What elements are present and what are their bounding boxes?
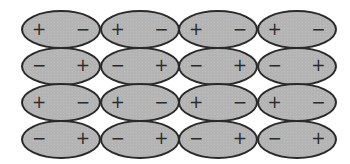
dipole-ellipse: −+ xyxy=(178,120,258,159)
plus-sign: + xyxy=(76,130,90,147)
dipole-ellipse: −+ xyxy=(178,47,258,86)
minus-sign: − xyxy=(233,94,247,111)
minus-sign: − xyxy=(311,94,325,111)
minus-sign: − xyxy=(32,130,46,147)
dipole-ellipse: +− xyxy=(178,83,258,122)
plus-sign: + xyxy=(111,94,125,111)
plus-sign: + xyxy=(233,130,247,147)
dipole-ellipse: −+ xyxy=(100,120,180,159)
plus-sign: + xyxy=(154,57,168,74)
plus-sign: + xyxy=(233,57,247,74)
dipole-ellipse: −+ xyxy=(21,120,101,159)
minus-sign: − xyxy=(268,57,282,74)
dipole-ellipse: +− xyxy=(178,10,258,49)
plus-sign: + xyxy=(32,94,46,111)
dipole-ellipse: −+ xyxy=(257,47,337,86)
minus-sign: − xyxy=(111,130,125,147)
dipole-ellipse: −+ xyxy=(257,120,337,159)
dipole-ellipse: +− xyxy=(257,10,337,49)
minus-sign: − xyxy=(189,57,203,74)
minus-sign: − xyxy=(76,94,90,111)
dipole-ellipse: +− xyxy=(21,10,101,49)
minus-sign: − xyxy=(189,130,203,147)
dipole-ellipse: +− xyxy=(257,83,337,122)
minus-sign: − xyxy=(311,21,325,38)
plus-sign: + xyxy=(189,21,203,38)
plus-sign: + xyxy=(268,21,282,38)
dipole-ellipse: +− xyxy=(100,10,180,49)
plus-sign: + xyxy=(111,21,125,38)
plus-sign: + xyxy=(311,130,325,147)
dipole-array: +−+−+−+−−+−+−+−++−+−+−+−−+−+−+−+ xyxy=(21,10,335,156)
minus-sign: − xyxy=(268,130,282,147)
plus-sign: + xyxy=(311,57,325,74)
plus-sign: + xyxy=(154,130,168,147)
plus-sign: + xyxy=(189,94,203,111)
plus-sign: + xyxy=(32,21,46,38)
minus-sign: − xyxy=(154,94,168,111)
minus-sign: − xyxy=(32,57,46,74)
minus-sign: − xyxy=(154,21,168,38)
dipole-ellipse: +− xyxy=(100,83,180,122)
minus-sign: − xyxy=(76,21,90,38)
plus-sign: + xyxy=(76,57,90,74)
dipole-ellipse: −+ xyxy=(21,47,101,86)
dipole-ellipse: +− xyxy=(21,83,101,122)
plus-sign: + xyxy=(268,94,282,111)
dipole-ellipse: −+ xyxy=(100,47,180,86)
minus-sign: − xyxy=(111,57,125,74)
minus-sign: − xyxy=(233,21,247,38)
